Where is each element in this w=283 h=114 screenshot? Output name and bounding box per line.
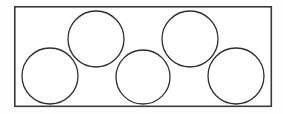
figure-container bbox=[0, 0, 283, 114]
container-rectangle bbox=[15, 7, 272, 107]
circle-packing-diagram bbox=[0, 0, 283, 114]
